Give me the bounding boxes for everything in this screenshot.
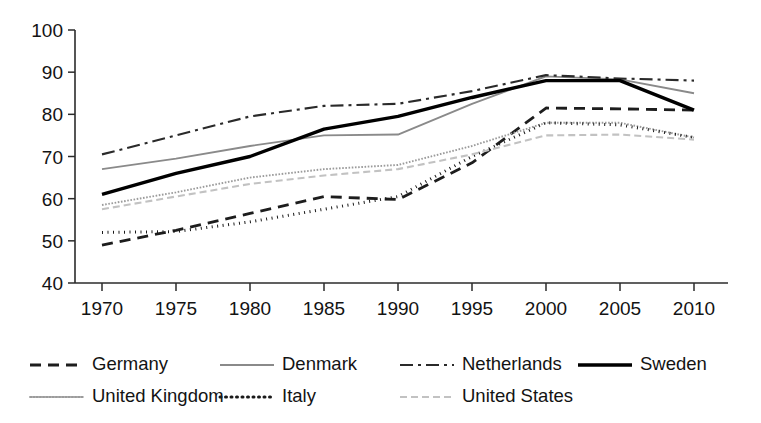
x-tick-label: 1975 — [155, 298, 197, 319]
x-tick-label: 1995 — [451, 298, 493, 319]
x-tick-label: 1970 — [81, 298, 123, 319]
chart-legend: GermanyDenmarkNetherlandsSwedenUnited Ki… — [30, 353, 707, 406]
legend-item-united-kingdom: United Kingdom — [30, 385, 224, 406]
legend-label: Italy — [282, 385, 317, 406]
legend-item-germany: Germany — [30, 353, 169, 374]
series-line-germany — [102, 108, 694, 245]
y-tick-label: 70 — [42, 147, 63, 168]
y-tick-label: 50 — [42, 231, 63, 252]
legend-label: Netherlands — [462, 353, 562, 374]
series-line-italy — [102, 123, 694, 233]
series-line-united-states — [102, 135, 694, 210]
y-tick-label: 80 — [42, 104, 63, 125]
legend-label: Denmark — [282, 353, 358, 374]
x-tick-label-group: 197019751980198519901995200020052010 — [81, 298, 715, 319]
y-tick-label: 100 — [31, 20, 63, 41]
x-tick-label: 1990 — [377, 298, 419, 319]
y-tick-label-group: 405060708090100 — [31, 20, 63, 294]
series-group — [102, 75, 694, 245]
legend-label: United Kingdom — [92, 385, 224, 406]
legend-item-sweden: Sweden — [578, 353, 707, 374]
legend-label: Germany — [92, 353, 169, 374]
line-chart: 405060708090100 197019751980198519901995… — [0, 0, 761, 423]
y-tick-label: 60 — [42, 189, 63, 210]
legend-label: Sweden — [640, 353, 707, 374]
x-tick-label: 1980 — [229, 298, 271, 319]
x-tick-label: 2000 — [525, 298, 567, 319]
x-tick-label: 1985 — [303, 298, 345, 319]
y-tick-group — [68, 30, 75, 283]
legend-item-united-states: United States — [400, 385, 573, 406]
legend-label: United States — [462, 385, 573, 406]
x-axis: 197019751980198519901995200020052010 — [75, 283, 728, 319]
legend-item-denmark: Denmark — [220, 353, 358, 374]
y-tick-label: 40 — [42, 273, 63, 294]
x-tick-group — [102, 283, 694, 291]
y-axis: 405060708090100 — [31, 20, 75, 294]
x-tick-label: 2010 — [673, 298, 715, 319]
x-tick-label: 2005 — [599, 298, 641, 319]
y-tick-label: 90 — [42, 62, 63, 83]
legend-item-netherlands: Netherlands — [400, 353, 562, 374]
series-line-sweden — [102, 81, 694, 195]
legend-item-italy: Italy — [220, 385, 317, 406]
chart-canvas: 405060708090100 197019751980198519901995… — [0, 0, 761, 423]
